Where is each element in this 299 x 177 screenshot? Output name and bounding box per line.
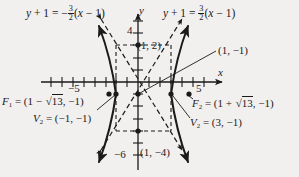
y-tick-label-minus6: −6: [114, 148, 126, 160]
label-point-1-minus4: (1, −4): [140, 146, 170, 158]
x-axis-label: x: [218, 66, 223, 78]
leader-vertex-left-label: [97, 95, 115, 110]
radical-sign: √13: [235, 96, 253, 109]
vertex-left-eq: = (−1, −1): [43, 112, 91, 124]
y-axis-label: y: [139, 4, 144, 16]
point-center: [135, 91, 140, 96]
point-co-vertex-lower: [135, 128, 140, 133]
focus-right-radicand: 13: [242, 96, 253, 109]
label-vertex-right: V2 = (3, −1): [190, 116, 242, 129]
focus-right-symbol: F: [192, 97, 199, 109]
y-tick-label-4: 4: [127, 24, 133, 36]
asymptote-right-equation: y + 1 = 32(x − 1): [163, 5, 235, 23]
vertex-right-symbol: V: [190, 116, 197, 128]
focus-left-symbol: F: [2, 95, 9, 107]
focus-left-radicand: 13: [52, 94, 63, 107]
x-tick-label-minus5: −5: [68, 82, 80, 94]
vertex-left-symbol: V: [33, 112, 40, 124]
focus-left-eq: = (1 −: [12, 95, 45, 107]
point-focus-left: [106, 91, 111, 96]
focus-right-eq: = (1 +: [202, 97, 235, 109]
vertex-right-eq: = (3, −1): [200, 116, 242, 128]
label-focus-right: F2 = (1 + √13, −1): [192, 96, 274, 110]
point-focus-right: [186, 91, 191, 96]
focus-left-tail: , −1): [63, 95, 84, 107]
left-branch-upper: [99, 26, 116, 94]
leader-vertex-right-label: [173, 96, 190, 118]
radical-sign: √13: [45, 94, 63, 107]
right-branch-upper: [171, 26, 188, 94]
asymptote-left-equation: y + 1 = −32(x − 1): [26, 5, 105, 23]
focus-right-tail: , −1): [253, 97, 274, 109]
label-point-1-minus1: (1, −1): [218, 44, 248, 56]
point-vertex-right: [168, 91, 173, 96]
label-point-1-2: (1, 2): [137, 39, 161, 51]
label-vertex-left: V2 = (−1, −1): [33, 112, 91, 125]
x-tick-label-5: 5: [196, 82, 202, 94]
label-focus-left: F1 = (1 − √13, −1): [2, 94, 84, 108]
